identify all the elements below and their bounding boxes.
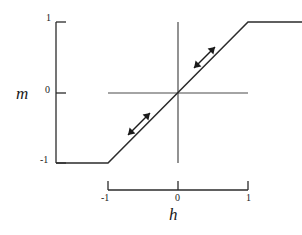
y-axis-scale-bar	[56, 22, 66, 163]
y-axis-label: m	[16, 85, 28, 102]
figure-root: m h 1 0 -1 -1 0 1	[0, 0, 302, 235]
x-tick-label-neg1: -1	[101, 193, 109, 203]
x-axis-scale-bar	[108, 181, 248, 190]
y-tick-label-neg1: -1	[40, 155, 48, 165]
x-tick-label-0: 0	[175, 193, 180, 203]
x-tick-label-1: 1	[246, 193, 251, 203]
y-tick-label-0: 0	[45, 85, 50, 95]
x-axis-label: h	[169, 206, 178, 223]
plot-canvas	[0, 0, 302, 235]
magnetization-curve	[56, 22, 302, 163]
y-tick-label-1: 1	[46, 13, 51, 23]
